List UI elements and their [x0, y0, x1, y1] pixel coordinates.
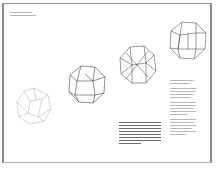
polyhedron-2	[67, 65, 107, 105]
polyhedron-4	[168, 21, 208, 61]
polyhedron-1	[16, 87, 52, 125]
polyhedron-3	[118, 45, 158, 85]
book-spread	[2, 3, 212, 163]
